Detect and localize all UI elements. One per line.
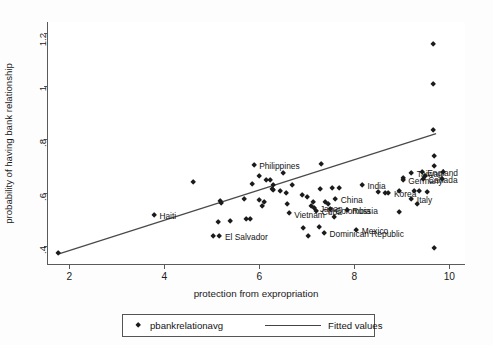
data-point-label: Russia: [352, 207, 378, 215]
x-axis-tick: [259, 264, 260, 269]
figure: probability of having bank relationship …: [0, 0, 493, 345]
diamond-marker-icon: [134, 321, 143, 330]
y-axis-tick-label: 1.2: [37, 33, 48, 46]
chart-legend: pbankrelationavg Fitted values: [122, 314, 375, 337]
data-point-label: China: [341, 196, 363, 204]
plot-frame: HaitiEl SalvadorPhilippinesVietnamJapanC…: [47, 22, 465, 265]
x-axis-tick: [69, 264, 70, 269]
y-axis-tick-label: 1: [37, 86, 48, 91]
data-point-label: El Salvador: [225, 233, 268, 241]
y-axis-tick-label: .8: [37, 139, 48, 147]
x-axis-tick-label: 6: [257, 271, 263, 282]
x-axis-tick-label: 10: [444, 271, 455, 282]
x-axis-tick: [449, 264, 450, 269]
data-point-label: Mexico: [362, 227, 389, 235]
fitted-line: [48, 22, 465, 264]
line-marker-icon: [265, 325, 321, 326]
x-axis-tick: [164, 264, 165, 269]
legend-label-fit: Fitted values: [328, 320, 382, 331]
y-axis-tick-label: .4: [37, 246, 48, 254]
x-axis-tick-label: 2: [67, 271, 73, 282]
x-axis-tick-label: 8: [352, 271, 358, 282]
x-axis-tick: [354, 264, 355, 269]
x-axis-title: protection from expropriation: [47, 288, 465, 299]
y-axis-title-text: probability of having bank relationship: [3, 63, 14, 224]
x-axis-tick-label: 4: [162, 271, 168, 282]
legend-entry-scatter: pbankrelationavg: [134, 320, 223, 331]
plot-area: HaitiEl SalvadorPhilippinesVietnamJapanC…: [48, 22, 465, 264]
y-axis-title: probability of having bank relationship: [0, 22, 16, 265]
data-point-label: Philippines: [259, 162, 300, 170]
legend-entry-fit: Fitted values: [265, 320, 382, 331]
legend-label-scatter: pbankrelationavg: [150, 320, 223, 331]
data-point-label: Haiti: [159, 212, 176, 220]
y-axis-tick-label: .6: [37, 193, 48, 201]
